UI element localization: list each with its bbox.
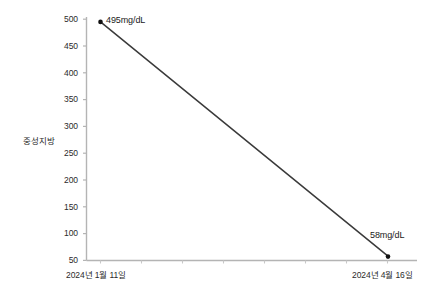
y-tick-label-500: 500 [50,14,78,24]
y-tick-label-250: 250 [50,148,78,158]
chart-container: 500 450 400 350 300 250 200 150 100 50 중… [0,0,439,294]
y-tick-label-350: 350 [50,94,78,104]
y-tick-label-50: 50 [50,255,78,265]
data-point-marker-end[interactable] [386,254,391,259]
series-line-triglyceride [101,22,389,256]
y-tick-label-150: 150 [50,202,78,212]
y-tick-label-450: 450 [50,41,78,51]
data-point-label-end: 58mg/dL [370,230,404,240]
x-tick-label-end: 2024년 4월 16일 [352,268,413,280]
y-axis-title: 중성지방 [23,134,55,146]
y-tick-label-300: 300 [50,121,78,131]
data-point-label-start: 495mg/dL [106,15,145,25]
x-tick-label-start: 2024년 1월 11일 [66,268,126,280]
y-tick-label-400: 400 [50,68,78,78]
y-tick-label-200: 200 [50,175,78,185]
y-tick-label-100: 100 [50,228,78,238]
data-point-marker-start[interactable] [98,20,103,25]
